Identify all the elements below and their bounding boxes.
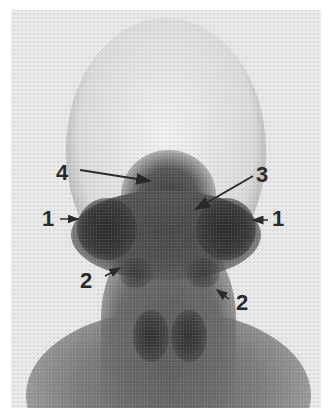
arrow-4-icon bbox=[80, 170, 150, 181]
label-2-right: 2 bbox=[236, 292, 248, 314]
label-4: 4 bbox=[56, 162, 68, 184]
label-3: 3 bbox=[256, 164, 268, 186]
label-1-left: 1 bbox=[42, 208, 54, 230]
label-1-right: 1 bbox=[272, 208, 284, 230]
arrow-3-icon bbox=[196, 176, 253, 209]
label-2-left: 2 bbox=[80, 270, 92, 292]
arrow-2-left-icon bbox=[105, 268, 120, 276]
arrow-2-right-icon bbox=[217, 290, 229, 299]
